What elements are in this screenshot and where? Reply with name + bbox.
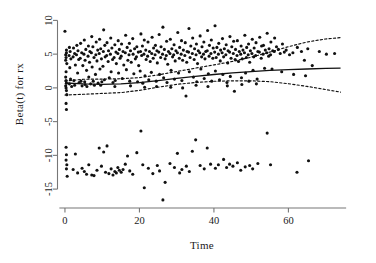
data-point [185,165,188,168]
data-point [143,38,146,41]
data-point [87,163,90,166]
data-point [219,59,222,62]
data-point [76,49,79,52]
data-point [178,171,181,174]
data-point [231,165,234,168]
data-point [203,77,206,80]
data-point [72,168,75,171]
y-axis-title: Beta(t) for rx [13,49,25,139]
data-point [243,51,246,54]
data-point [122,63,125,66]
data-point [245,46,248,49]
x-tick-label: 20 [134,215,145,226]
data-point [102,150,105,153]
data-point [189,44,192,47]
data-point [230,45,233,48]
data-point [221,37,224,40]
data-point [143,186,146,189]
y-tick-label: 10 [44,15,55,26]
data-point [94,53,97,56]
data-point [87,44,90,47]
data-point [165,54,168,57]
data-point [164,57,167,60]
data-point [65,56,68,59]
data-point [72,55,75,58]
data-point [318,50,321,53]
data-point [256,162,259,165]
data-point [163,48,166,51]
data-point [247,42,250,45]
data-point [240,76,243,79]
data-point [90,51,93,54]
data-point [273,36,276,39]
data-point [75,53,78,56]
data-point [100,57,103,60]
data-point [141,163,144,166]
data-point [95,169,98,172]
data-point [196,62,199,65]
data-point [300,50,303,53]
data-point [118,48,121,51]
data-point [152,57,155,60]
data-point [161,198,164,201]
data-point [100,165,103,168]
data-point [124,34,127,37]
data-point [176,152,179,155]
data-point [195,53,198,56]
data-point [225,166,228,169]
data-point [74,63,77,66]
data-point [200,45,203,48]
data-point [65,102,68,105]
data-point [65,163,68,166]
data-point [173,43,176,46]
data-point [158,169,161,172]
data-point [129,49,132,52]
data-point [211,57,214,60]
data-point [221,51,224,54]
data-point [83,38,86,41]
data-point [183,54,186,57]
data-point [174,59,177,62]
data-point [105,41,108,44]
y-tick-label: 0 [44,85,55,90]
chart-canvas: 1050-5-10-150204060 [0,0,376,263]
data-point [98,146,101,149]
data-point [65,167,68,170]
data-points-layer [63,24,336,201]
data-point [147,167,150,170]
data-point [188,70,191,73]
data-point [210,38,213,41]
data-point [180,168,183,171]
data-point [90,35,93,38]
data-point [180,39,183,42]
data-point [215,46,218,49]
data-point [291,51,294,54]
data-point [129,84,132,87]
data-point [66,175,69,178]
tick-labels-layer: 1050-5-10-150204060 [43,15,293,226]
data-point [120,55,123,58]
data-point [75,44,78,47]
data-point [69,50,72,53]
data-point [107,49,110,52]
data-point [199,34,202,37]
data-point [258,36,261,39]
data-point [110,47,113,50]
data-point [191,36,194,39]
data-point [64,76,67,79]
data-point [86,55,89,58]
data-point [79,57,82,60]
data-point [247,53,250,56]
scatter-plot-figure: 1050-5-10-150204060 Beta(t) for rx Time [0,0,376,263]
data-point [98,38,101,41]
data-point [226,84,229,87]
data-point [285,49,288,52]
data-point [311,64,314,67]
data-point [125,68,128,71]
data-point [139,69,142,72]
data-point [244,165,247,168]
data-point [230,57,233,60]
data-point [124,163,127,166]
data-point [72,47,75,50]
data-point [151,36,154,39]
